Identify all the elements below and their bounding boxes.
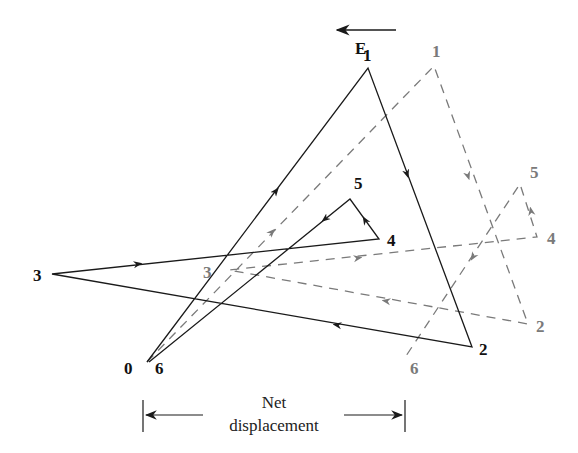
solid-label-5: 5 xyxy=(354,174,363,193)
dashed-path xyxy=(147,66,537,362)
solid-label-0: 0 xyxy=(124,359,133,378)
dashed-label-4: 4 xyxy=(547,229,556,248)
solid-label-3: 3 xyxy=(33,266,42,285)
solid-label-4: 4 xyxy=(387,231,396,250)
solid-path-arrows xyxy=(132,168,407,326)
dashed-label-3: 3 xyxy=(203,263,212,282)
dashed-label-5: 5 xyxy=(530,163,539,182)
net-displacement-label-line2: displacement xyxy=(229,416,319,435)
solid-label-2: 2 xyxy=(479,340,488,359)
dashed-path-arrows xyxy=(268,170,532,302)
dashed-label-6: 6 xyxy=(410,359,419,378)
dashed-label-1: 1 xyxy=(432,42,441,61)
drift-diagram: E 0 1 2 3 4 xyxy=(0,0,578,453)
solid-label-6: 6 xyxy=(155,359,164,378)
solid-path xyxy=(52,68,472,362)
dashed-label-2: 2 xyxy=(536,317,545,336)
solid-label-1: 1 xyxy=(363,46,372,65)
net-displacement-label-line1: Net xyxy=(262,393,287,412)
